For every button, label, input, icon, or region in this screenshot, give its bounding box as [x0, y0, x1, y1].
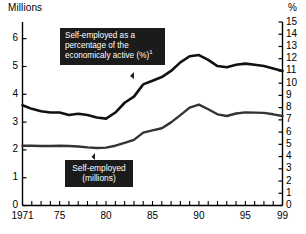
left-tick-label-0: 0	[2, 199, 18, 210]
right-tick-label-8: 8	[286, 101, 292, 112]
callout-percentage-line3-text: economicaly active (%)	[65, 51, 149, 60]
right-tick-label-14: 14	[286, 28, 297, 39]
right-tick-label-7: 7	[286, 113, 292, 124]
x-tick-label-95: 95	[240, 210, 251, 221]
callout-percentage-line3: economicaly active (%)1	[65, 51, 160, 61]
callout-millions: Self-employed (millions)	[65, 160, 133, 187]
x-tick-label-90: 90	[193, 210, 204, 221]
chart-figure: Millions % 0123456 012345678910111213141…	[0, 0, 306, 234]
callout-percentage-line2: percentage of the	[65, 41, 160, 51]
callout-percentage-footnote: 1	[149, 50, 152, 56]
x-tick-label-75: 75	[54, 210, 65, 221]
right-tick-label-4: 4	[286, 150, 292, 161]
right-tick-label-6: 6	[286, 126, 292, 137]
right-tick-label-3: 3	[286, 162, 292, 173]
right-tick-label-13: 13	[286, 40, 297, 51]
right-tick-label-15: 15	[286, 16, 297, 27]
callout-pointer-percentage	[130, 72, 134, 79]
x-tick-label-99: 99	[277, 210, 288, 221]
right-tick-label-10: 10	[286, 77, 297, 88]
series-line-millions	[23, 105, 283, 148]
left-tick-label-2: 2	[2, 143, 18, 154]
callout-percentage: Self-employed as a percentage of the eco…	[60, 28, 165, 65]
callout-pointer-millions	[92, 153, 96, 160]
left-tick-label-1: 1	[2, 171, 18, 182]
callout-percentage-line1: Self-employed as a	[65, 31, 160, 41]
right-tick-label-2: 2	[286, 175, 292, 186]
left-tick-label-6: 6	[2, 32, 18, 43]
right-tick-label-12: 12	[286, 52, 297, 63]
left-tick-label-4: 4	[2, 88, 18, 99]
right-tick-label-1: 1	[286, 187, 292, 198]
left-tick-label-3: 3	[2, 116, 18, 127]
right-tick-label-11: 11	[286, 64, 296, 75]
right-axis-title: %	[288, 2, 297, 13]
callout-millions-line1: Self-employed	[70, 163, 128, 173]
right-tick-label-5: 5	[286, 138, 292, 149]
right-tick-label-0: 0	[286, 199, 292, 210]
left-tick-label-5: 5	[2, 60, 18, 71]
x-tick-label-80: 80	[101, 210, 112, 221]
callout-millions-line2: (millions)	[70, 173, 128, 183]
right-tick-label-9: 9	[286, 89, 292, 100]
left-axis-title: Millions	[8, 2, 42, 13]
x-tick-label-1971: 1971	[11, 210, 33, 221]
x-tick-label-85: 85	[147, 210, 158, 221]
